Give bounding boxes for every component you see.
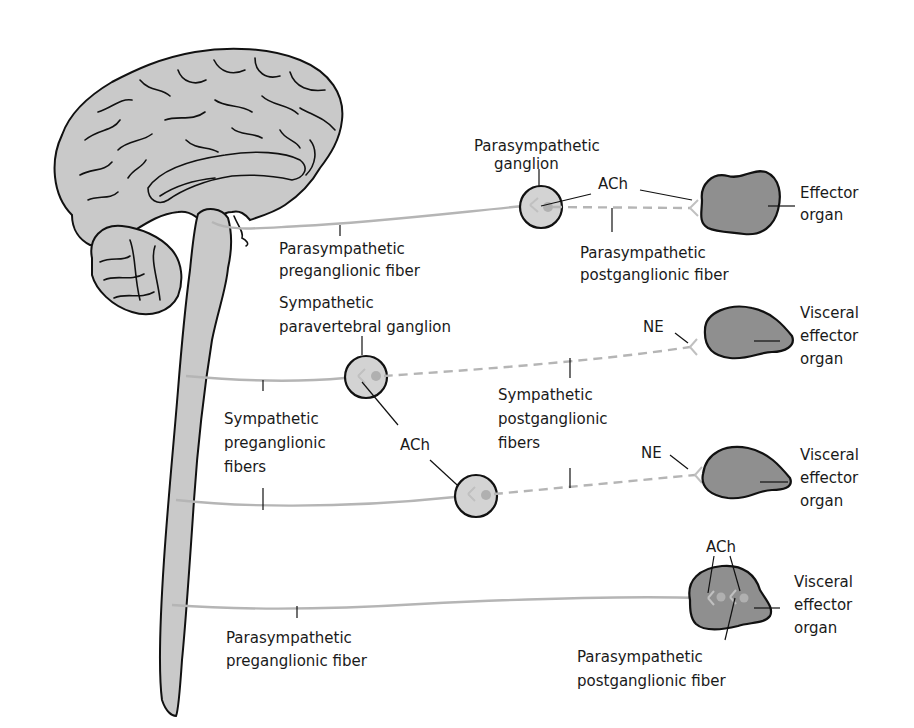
symp-paravertebral-label-2: paravertebral ganglion xyxy=(279,318,451,336)
para-post-bottom-label-1: Parasympathetic xyxy=(577,648,703,666)
visceral-3-label-3: organ xyxy=(794,619,837,637)
para-pre-bottom-label-1: Parasympathetic xyxy=(226,629,352,647)
sacral-parasympathetic-pathway xyxy=(172,556,780,640)
ach-middle-label: ACh xyxy=(400,436,430,454)
autonomic-nervous-system-diagram: Parasympathetic ganglion ACh Effector or… xyxy=(0,0,914,728)
symp-post-label-1: Sympathetic xyxy=(498,386,593,404)
symp-post-label-3: fibers xyxy=(498,434,540,452)
sympathetic-pathway-2 xyxy=(176,447,791,517)
symp-pre-label-2: preganglionic xyxy=(224,434,326,452)
effector-organ-label-2: organ xyxy=(800,206,843,224)
visceral-effector-organ-2 xyxy=(703,447,791,498)
effector-organ xyxy=(701,171,780,234)
sympathetic-pathway-1 xyxy=(186,307,793,398)
visceral-2-label-2: effector xyxy=(800,469,859,487)
effector-organ-label-1: Effector xyxy=(800,184,859,202)
symp-paravertebral-label-1: Sympathetic xyxy=(279,294,374,312)
symp-pre-label-3: fibers xyxy=(224,458,266,476)
visceral-2-label-1: Visceral xyxy=(800,446,859,464)
symp-post-label-2: postganglionic xyxy=(498,410,608,428)
para-pre-top-label-2: preganglionic fiber xyxy=(279,262,421,280)
symp-pre-label-1: Sympathetic xyxy=(224,410,319,428)
visceral-3-label-2: effector xyxy=(794,596,853,614)
visceral-1-label-2: effector xyxy=(800,327,859,345)
para-post-top-label-1: Parasympathetic xyxy=(580,244,706,262)
brain xyxy=(55,49,343,716)
para-ganglion-label-2: ganglion xyxy=(494,155,559,173)
ne-2-label: NE xyxy=(641,444,662,462)
para-ganglion-label-1: Parasympathetic xyxy=(474,137,600,155)
ne-1-label: NE xyxy=(643,318,664,336)
ach-top-label: ACh xyxy=(598,175,628,193)
visceral-2-label-3: organ xyxy=(800,492,843,510)
para-pre-top-label-1: Parasympathetic xyxy=(279,240,405,258)
para-post-bottom-label-2: postganglionic fiber xyxy=(577,672,727,690)
para-post-top-label-2: postganglionic fiber xyxy=(580,266,730,284)
para-pre-bottom-label-2: preganglionic fiber xyxy=(226,652,368,670)
visceral-1-label-3: organ xyxy=(800,350,843,368)
visceral-effector-organ-1 xyxy=(705,307,793,359)
visceral-3-label-1: Visceral xyxy=(794,573,853,591)
ach-bottom-label: ACh xyxy=(706,538,736,556)
visceral-1-label-1: Visceral xyxy=(800,304,859,322)
